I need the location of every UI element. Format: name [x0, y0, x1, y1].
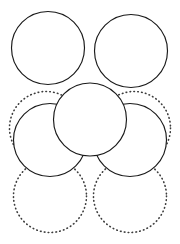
top-right-circle — [95, 15, 168, 88]
center-circle — [54, 83, 127, 156]
top-left-circle — [12, 12, 85, 85]
figure-container — [0, 0, 180, 244]
close-packed-circles-diagram — [0, 0, 180, 244]
